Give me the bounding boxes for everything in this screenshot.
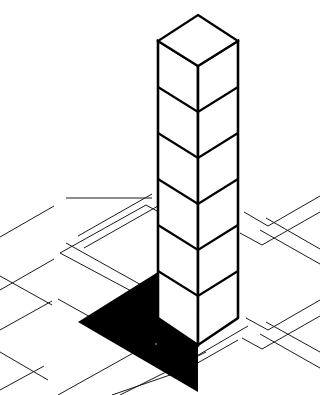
- shadow-speck: [155, 343, 157, 345]
- stacked-cube-column: [158, 15, 238, 345]
- column-left-face: [158, 41, 198, 345]
- column-right-face: [198, 41, 238, 345]
- isometric-column-illustration: Isometric stacked cube column on tiled f…: [0, 0, 320, 395]
